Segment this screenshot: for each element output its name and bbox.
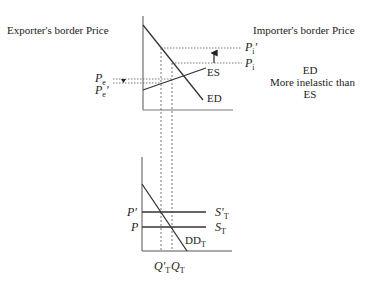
importer-axis-title: Importer's border Price <box>253 24 355 36</box>
dd-curve <box>142 184 187 251</box>
exporter-axis-title: Exporter's border Price <box>7 24 109 36</box>
q-prime-label: Q′T <box>154 260 170 277</box>
dd-curve-label: DDT <box>185 234 206 251</box>
ed-curve <box>143 25 203 100</box>
p-label: P <box>131 221 138 233</box>
diagram-graphics <box>0 0 365 290</box>
ed-curve-label: ED <box>207 92 222 104</box>
q-label: QT <box>171 260 185 277</box>
s-curve-label: ST <box>215 221 226 238</box>
trade-diagram: Exporter's border Price Importer's borde… <box>0 0 365 290</box>
note-line-1: ED <box>270 64 350 76</box>
note-line-3: ES <box>270 88 350 100</box>
p-prime-label: P′ <box>127 206 137 218</box>
pi-label: Pi <box>245 57 255 74</box>
pe-prime-label: Pe′ <box>95 84 109 101</box>
price-decrease-arrow-icon <box>121 79 126 83</box>
elasticity-note: ED More inelastic than ES <box>270 64 350 100</box>
note-line-2: More inelastic than <box>270 76 350 88</box>
es-curve-label: ES <box>207 66 220 78</box>
